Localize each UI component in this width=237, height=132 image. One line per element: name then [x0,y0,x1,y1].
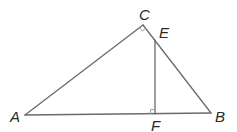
segment-ab [25,113,211,115]
label-e: E [159,24,170,41]
triangle-diagram: C E A B F [0,0,237,132]
label-c: C [139,6,150,23]
label-f: F [151,117,161,132]
label-b: B [215,108,225,125]
label-a: A [9,108,20,125]
segment-cb [143,25,211,113]
segment-ac [25,25,143,115]
